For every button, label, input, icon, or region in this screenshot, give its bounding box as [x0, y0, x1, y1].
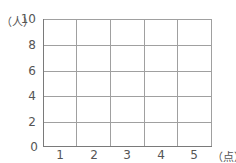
x-tick-3: 3 [117, 149, 137, 161]
x-axis-label: （点） [212, 148, 236, 163]
x-tick-2: 2 [84, 149, 104, 161]
chart: （人） 10 8 6 4 2 0 1 2 3 4 5 （点） [0, 0, 236, 163]
x-tick-4: 4 [151, 149, 171, 161]
grid [0, 0, 236, 163]
x-tick-1: 1 [50, 149, 70, 161]
x-tick-5: 5 [184, 149, 204, 161]
